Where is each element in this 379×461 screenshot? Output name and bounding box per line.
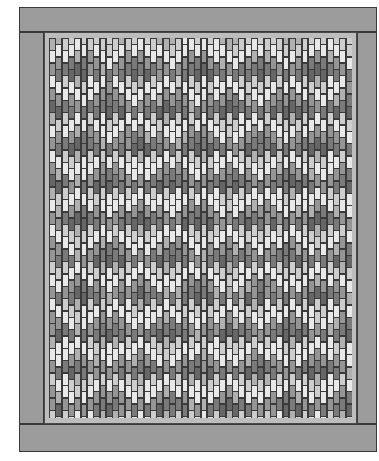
brick: [346, 243, 352, 256]
brick: [346, 218, 352, 231]
brick: [346, 267, 352, 280]
left-border-strip: [19, 32, 44, 424]
quilt-design: [19, 7, 377, 452]
brick: [346, 230, 352, 243]
brick: [346, 329, 352, 342]
brick: [346, 280, 352, 293]
brick: [346, 44, 352, 57]
brick: [346, 168, 352, 181]
brick: [346, 367, 352, 380]
brick: [346, 205, 352, 218]
brick: [346, 131, 352, 144]
brick-field: [49, 38, 352, 418]
brick: [346, 193, 352, 206]
brick: [346, 69, 352, 82]
brick: [346, 94, 352, 107]
top-border-strip: [19, 7, 377, 32]
brick: [346, 181, 352, 194]
bottom-border-strip: [19, 424, 377, 452]
brick: [346, 255, 352, 268]
brick: [346, 379, 352, 392]
brick: [346, 81, 352, 94]
brick: [346, 57, 352, 70]
brick: [346, 391, 352, 404]
brick: [346, 156, 352, 169]
brick: [346, 143, 352, 156]
brick: [346, 354, 352, 367]
brick: [346, 317, 352, 330]
right-border-strip: [357, 32, 377, 424]
brick: [346, 119, 352, 132]
brick: [346, 342, 352, 355]
brick: [346, 404, 352, 417]
brick: [346, 305, 352, 318]
brick: [346, 292, 352, 305]
brick: [346, 416, 352, 418]
brick: [346, 106, 352, 119]
